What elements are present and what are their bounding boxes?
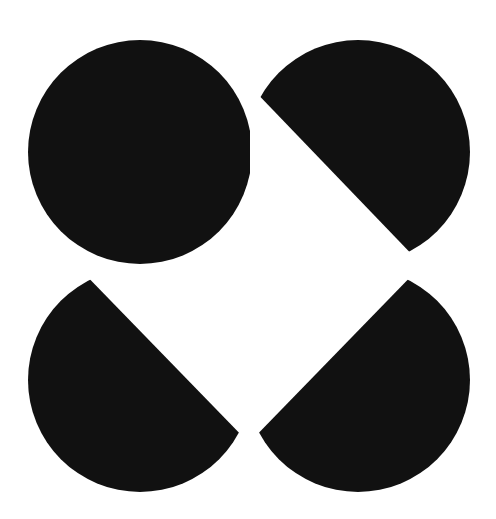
- lobe-bottom-left: [28, 268, 252, 492]
- logo-mark: [28, 40, 470, 492]
- lobe-bottom-right: [246, 268, 470, 492]
- logo-canvas: [0, 0, 496, 519]
- lobe-top-right: [246, 40, 470, 264]
- lobe-top-left: [28, 40, 252, 264]
